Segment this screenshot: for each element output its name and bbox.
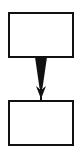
arrow-down-icon: [35, 57, 47, 100]
flow-node-bottom: [8, 100, 74, 146]
